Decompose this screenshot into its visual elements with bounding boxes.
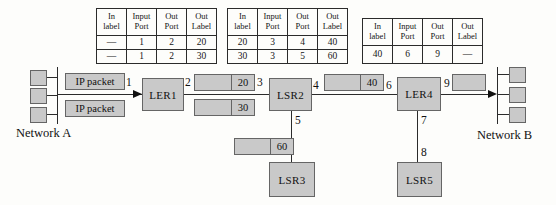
packet-label-tag: 30 [231, 100, 254, 115]
node-lsr5: LSR5 [397, 162, 442, 197]
port-3: 3 [257, 76, 263, 88]
labeled-packet-60: 60 [234, 138, 294, 155]
node-lsr3: LSR3 [269, 162, 315, 197]
packet-payload [195, 100, 231, 115]
ler4-forwarding-table: Inlabel InputPort OutPort OutLabel 40 6 … [362, 18, 483, 64]
unlabeled-packet-box [452, 74, 486, 91]
labeled-packet-30: 30 [194, 99, 255, 116]
port-4: 4 [313, 79, 319, 91]
mpls-label-switching-diagram: Inlabel InputPort OutPort OutLabel — 1 2… [0, 0, 556, 205]
network-a-label: Network A [16, 126, 71, 141]
port-1: 1 [126, 76, 132, 88]
node-ler4: LER4 [397, 77, 441, 111]
port-6: 6 [386, 79, 392, 91]
packet-payload [325, 75, 360, 90]
port-2: 2 [185, 76, 191, 88]
table-row: — 1 2 20 [97, 36, 217, 50]
port-8: 8 [421, 146, 427, 158]
node-label: LER4 [405, 88, 432, 100]
network-a-bus-line [57, 67, 58, 124]
labeled-packet-20: 20 [194, 74, 255, 91]
table-row: 40 6 9 — [363, 46, 483, 64]
network-b-host [509, 67, 526, 83]
node-label: LER1 [149, 89, 176, 101]
link-ler4-lsr5 [417, 109, 418, 162]
table-row: — 1 2 30 [97, 50, 217, 64]
port-5: 5 [295, 114, 301, 126]
packet-label-tag: 40 [360, 75, 383, 90]
table-header-row: Inlabel InputPort OutPort OutLabel [228, 9, 348, 36]
network-a-host [30, 70, 47, 86]
table-header-row: Inlabel InputPort OutPort OutLabel [363, 19, 483, 46]
network-a-host [30, 107, 47, 123]
ler1-forwarding-table: Inlabel InputPort OutPort OutLabel — 1 2… [96, 8, 217, 64]
lsr2-forwarding-table: Inlabel InputPort OutPort OutLabel 20 3 … [227, 8, 348, 64]
ip-packet-label: IP packet [76, 103, 115, 114]
labeled-packet-40: 40 [324, 74, 384, 91]
node-ler1: LER1 [142, 78, 184, 111]
ip-packet-box: IP packet [65, 100, 125, 117]
network-b-host [509, 107, 526, 123]
table-row: 30 3 5 60 [228, 50, 348, 64]
packet-payload [195, 75, 231, 90]
packet-label-tag: 20 [231, 75, 254, 90]
packet-label-tag: 60 [270, 139, 293, 154]
network-b-host [509, 87, 526, 103]
port-7: 7 [421, 114, 427, 126]
node-label: LSR3 [279, 174, 306, 186]
node-label: LSR5 [406, 174, 433, 186]
node-lsr2: LSR2 [269, 78, 312, 111]
network-b-bus-line [497, 67, 498, 124]
port-9: 9 [444, 77, 450, 89]
network-a-host [30, 88, 47, 104]
node-label: LSR2 [277, 89, 304, 101]
table-header-row: Inlabel InputPort OutPort OutLabel [97, 9, 217, 36]
packet-payload [235, 139, 270, 154]
ip-packet-label: IP packet [76, 76, 115, 87]
ip-packet-box: IP packet [65, 73, 125, 90]
table-row: 20 3 4 40 [228, 36, 348, 50]
arrowhead-into-network-b [488, 90, 497, 98]
network-b-label: Network B [477, 128, 532, 143]
arrowhead-into-ler1 [133, 90, 142, 98]
